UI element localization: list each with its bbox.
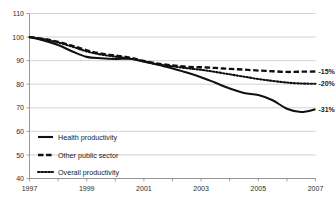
x-tick-label: 2005 — [251, 185, 267, 192]
legend-label-dotted: Overall productivity — [58, 168, 120, 177]
y-tick-label: 60 — [16, 128, 24, 135]
x-tick-label: 2003 — [193, 185, 209, 192]
y-tick-label: 70 — [16, 104, 24, 111]
legend-label-solid: Health productivity — [58, 133, 118, 142]
x-tick-label: 2001 — [136, 185, 152, 192]
end-label-dashed: -15% — [319, 68, 336, 75]
end-label-dotted: -20% — [319, 80, 336, 87]
x-tick-label: 1997 — [22, 185, 38, 192]
y-tick-label: 50 — [16, 152, 24, 159]
y-tick-label: 40 — [16, 175, 24, 182]
y-tick-label: 110 — [13, 10, 24, 17]
x-tick-label: 1999 — [79, 185, 95, 192]
chart-canvas: 405060708090100110 199719992001200320052… — [0, 0, 336, 205]
y-tick-label: 80 — [16, 81, 24, 88]
end-label-solid: -31% — [319, 106, 336, 113]
legend-label-dashed: Other public sector — [58, 151, 119, 160]
y-tick-label: 100 — [12, 34, 24, 41]
y-tick-label: 90 — [16, 57, 24, 64]
chart-background — [0, 0, 336, 205]
x-tick-label: 2007 — [308, 185, 324, 192]
productivity-line-chart: 405060708090100110 199719992001200320052… — [0, 0, 336, 205]
